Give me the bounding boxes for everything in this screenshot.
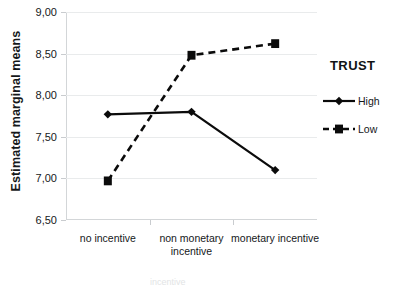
legend-label: Low: [358, 123, 377, 135]
legend-title: TRUST: [330, 58, 396, 73]
x-axis-tick-label: monetary incentive: [227, 232, 323, 245]
x-axis-tick-label: non monetaryincentive: [144, 232, 240, 258]
y-axis-tick-label: 8,50: [36, 48, 57, 60]
x-axis-tick-mark: [233, 220, 234, 225]
scan-artifact-text: incentive: [150, 277, 300, 285]
data-series-layer: [66, 12, 317, 220]
legend: TRUST HighLow: [322, 58, 396, 150]
data-point-marker-low: [271, 39, 279, 48]
legend-swatch-low: [322, 123, 356, 135]
legend-entry-low[interactable]: Low: [322, 122, 396, 136]
legend-entries-group: HighLow: [322, 94, 396, 136]
y-axis-tick-label: 7,00: [36, 172, 57, 184]
y-axis-title: Estimated marginal means: [9, 1, 23, 221]
data-point-marker-low: [104, 176, 112, 185]
x-axis-tick-mark: [150, 220, 151, 225]
x-axis-tick-label: no incentive: [60, 232, 156, 245]
y-axis-tick-label: 8,00: [36, 89, 57, 101]
interaction-plot-figure: Estimated marginal means 9,008,508,007,5…: [0, 0, 396, 285]
plot-area: 9,008,508,007,507,006,50 no incentivenon…: [66, 12, 317, 220]
data-point-marker-high: [104, 110, 112, 118]
series-line-high: [108, 112, 275, 170]
y-axis-tick-label: 9,00: [36, 6, 57, 18]
legend-swatch-high: [322, 95, 356, 107]
data-point-marker-low: [188, 51, 196, 60]
y-axis-tick-label: 6,50: [36, 214, 57, 226]
legend-entry-high[interactable]: High: [322, 94, 396, 108]
legend-label: High: [358, 95, 380, 107]
y-axis-tick-mark: [61, 220, 66, 221]
y-axis-tick-label: 7,50: [36, 131, 57, 143]
